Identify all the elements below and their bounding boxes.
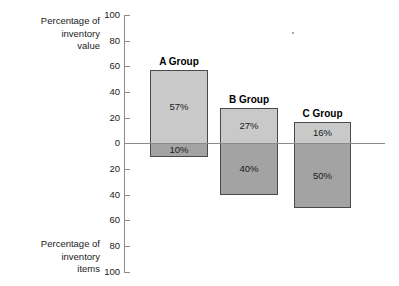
y-tick-label-dn-40: 40 <box>96 190 120 200</box>
y-tick-up-40 <box>124 92 130 93</box>
bar-a-upper[interactable]: 57% <box>150 70 208 144</box>
y-tick-up-20 <box>124 118 130 119</box>
y-tick-dn-20 <box>124 169 130 170</box>
bar-b-lower-value: 40% <box>239 164 258 174</box>
group-label-b: B Group <box>220 94 278 105</box>
y-tick-label-up-100: 100 <box>96 10 120 20</box>
y-tick-label-dn-20: 20 <box>96 164 120 174</box>
bar-c-lower-value: 50% <box>313 171 332 181</box>
bar-a-lower-value: 10% <box>169 145 188 155</box>
lower-axis-caption-line-2: inventory <box>8 251 100 264</box>
y-tick-up-100 <box>124 15 130 16</box>
y-tick-dn-40 <box>124 195 130 196</box>
bar-b-upper-value: 27% <box>239 121 258 131</box>
y-tick-dn-60 <box>124 220 130 221</box>
y-tick-dn-100 <box>124 272 130 273</box>
chart-canvas: Percentage of inventory value Percentage… <box>0 0 399 286</box>
upper-axis-caption-line-2: inventory <box>8 28 100 41</box>
lower-axis-caption: Percentage of inventory items <box>8 238 100 276</box>
y-tick-label-zero: 0 <box>96 138 120 148</box>
bar-c-upper[interactable]: 16% <box>294 122 351 144</box>
bar-b-lower[interactable]: 40% <box>220 143 278 195</box>
lower-axis-caption-line-1: Percentage of <box>8 238 100 251</box>
y-tick-label-dn-100: 100 <box>96 267 120 277</box>
bar-a-lower[interactable]: 10% <box>150 143 208 157</box>
upper-axis-caption-line-1: Percentage of <box>8 15 100 28</box>
upper-axis-caption-line-3: value <box>8 40 100 53</box>
y-tick-up-80 <box>124 41 130 42</box>
bar-c-upper-value: 16% <box>313 128 332 138</box>
y-tick-label-dn-60: 60 <box>96 215 120 225</box>
bar-b-upper[interactable]: 27% <box>220 108 278 144</box>
upper-axis-caption: Percentage of inventory value <box>8 15 100 53</box>
y-tick-label-up-40: 40 <box>96 87 120 97</box>
y-tick-label-up-80: 80 <box>96 36 120 46</box>
bar-a-upper-value: 57% <box>169 102 188 112</box>
group-label-a: A Group <box>150 56 208 67</box>
bar-c-lower[interactable]: 50% <box>294 143 351 208</box>
scan-speck-artifact <box>292 32 294 34</box>
y-tick-dn-80 <box>124 246 130 247</box>
y-tick-label-up-20: 20 <box>96 113 120 123</box>
y-axis-line <box>124 15 125 273</box>
lower-axis-caption-line-3: items <box>8 263 100 276</box>
y-tick-up-60 <box>124 66 130 67</box>
y-tick-label-up-60: 60 <box>96 61 120 71</box>
group-label-c: C Group <box>294 108 351 119</box>
y-tick-label-dn-80: 80 <box>96 241 120 251</box>
zero-baseline <box>124 143 385 144</box>
